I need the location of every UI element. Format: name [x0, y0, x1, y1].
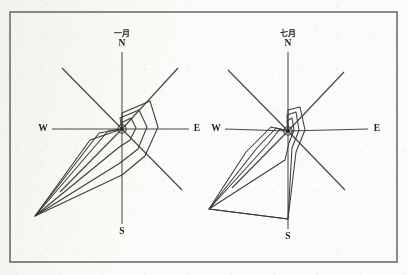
rose-hub-trace-july	[209, 118, 294, 209]
axis-line-january-nw	[62, 68, 122, 129]
axis-line-july-ne	[288, 72, 344, 131]
axis-line-july-nw	[228, 70, 288, 131]
center-hub-dot-january	[120, 127, 124, 131]
rose-outer-trace-january	[35, 101, 158, 216]
cardinal-label-july-w: W	[211, 123, 221, 133]
axis-line-july-sw	[232, 131, 288, 188]
cardinal-label-january-s: S	[119, 226, 124, 236]
center-hub-dot-july	[286, 129, 290, 133]
rose-inner-trace-january	[35, 110, 147, 216]
cardinal-label-january-n: N	[119, 38, 126, 48]
subplot-july: NSWE七月	[209, 28, 380, 242]
month-label-january: 一月	[114, 29, 130, 38]
axis-line-january-ne	[122, 68, 178, 129]
cardinal-label-july-e: E	[374, 123, 380, 133]
figure-frame	[10, 12, 397, 262]
cardinal-label-july-n: N	[285, 38, 292, 48]
wind-rose-figure: NSWE一月 NSWE七月	[0, 0, 408, 275]
cardinal-label-july-s: S	[285, 231, 290, 241]
cardinal-label-january-w: W	[38, 123, 48, 133]
axis-line-july-se	[288, 131, 345, 190]
subplot-january: NSWE一月	[35, 29, 200, 237]
cardinal-label-january-e: E	[194, 123, 200, 133]
axis-line-january-sw	[60, 129, 122, 192]
axis-line-july-e	[288, 129, 368, 131]
month-label-july: 七月	[280, 28, 296, 38]
